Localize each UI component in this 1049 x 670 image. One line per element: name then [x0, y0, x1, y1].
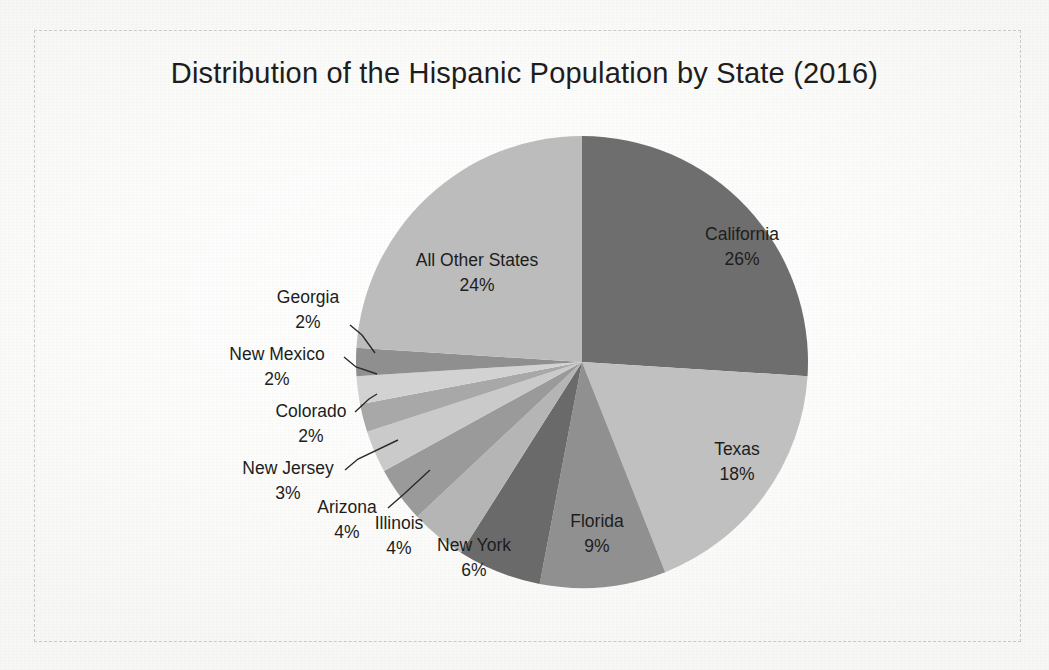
- pie-label-value-new-york: 6%: [461, 560, 486, 580]
- pie-label-value-all-other-states: 24%: [459, 275, 494, 295]
- pie-label-value-florida: 9%: [584, 536, 609, 556]
- pie-label-name-colorado: Colorado: [275, 401, 346, 421]
- pie-label-name-new-mexico: New Mexico: [229, 344, 324, 364]
- pie-label-name-california: California: [705, 224, 779, 244]
- pie-label-name-texas: Texas: [714, 439, 760, 459]
- pie-label-name-arizona: Arizona: [317, 497, 377, 517]
- pie-label-name-new-jersey: New Jersey: [242, 458, 334, 478]
- pie-chart-svg: California26%Texas18%Florida9%New York6%…: [0, 0, 1049, 670]
- pie-label-value-colorado: 2%: [298, 426, 323, 446]
- pie-slice-california[interactable]: [582, 136, 808, 376]
- pie-label-value-arizona: 4%: [334, 522, 359, 542]
- pie-chart-figure: California26%Texas18%Florida9%New York6%…: [0, 0, 1049, 670]
- pie-label-value-new-jersey: 3%: [275, 483, 300, 503]
- pie-label-value-texas: 18%: [719, 464, 754, 484]
- pie-label-name-illinois: Illinois: [375, 513, 424, 533]
- pie-label-name-new-york: New York: [437, 535, 511, 555]
- pie-slice-all-other-states[interactable]: [356, 136, 582, 362]
- pie-label-value-georgia: 2%: [295, 312, 320, 332]
- pie-label-name-florida: Florida: [570, 511, 624, 531]
- pie-label-value-new-mexico: 2%: [264, 369, 289, 389]
- pie-label-value-california: 26%: [724, 249, 759, 269]
- pie-label-value-illinois: 4%: [386, 538, 411, 558]
- pie-label-name-georgia: Georgia: [277, 287, 340, 307]
- pie-label-name-all-other-states: All Other States: [416, 250, 539, 270]
